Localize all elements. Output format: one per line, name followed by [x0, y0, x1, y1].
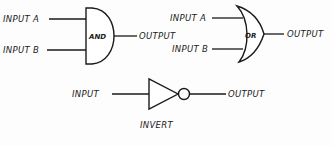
or-output-label: OUTPUT — [287, 29, 324, 39]
logic-gates-diagram: INPUT A INPUT B AND OUTPUT INPUT A INPUT… — [0, 0, 332, 146]
and-input-a-label: INPUT A — [3, 14, 39, 24]
invert-gate: INPUT OUTPUT INVERT — [72, 79, 265, 130]
and-gate-symbol-label: AND — [88, 33, 106, 41]
or-gate-symbol-label: OR — [245, 32, 256, 40]
invert-caption: INVERT — [140, 120, 173, 130]
invert-output-label: OUTPUT — [228, 89, 265, 99]
invert-triangle-icon — [149, 79, 178, 109]
invert-bubble-icon — [179, 89, 190, 100]
or-gate: INPUT A INPUT B OR OUTPUT — [170, 6, 324, 62]
and-gate: INPUT A INPUT B AND OUTPUT — [3, 8, 176, 64]
invert-input-label: INPUT — [72, 89, 99, 99]
or-input-a-label: INPUT A — [170, 13, 206, 23]
and-output-label: OUTPUT — [139, 31, 176, 41]
or-input-b-label: INPUT B — [172, 44, 208, 54]
and-input-b-label: INPUT B — [3, 45, 39, 55]
